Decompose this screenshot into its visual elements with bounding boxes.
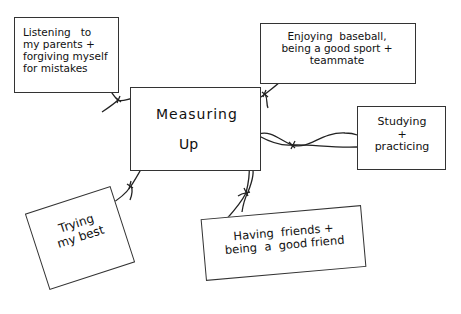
node-center-measuring-up: Measuring Up (130, 87, 261, 171)
string-tie-study (253, 131, 369, 149)
node-label: Having friends + being a good friend (211, 220, 358, 259)
center-label-line2: Up (179, 136, 198, 152)
node-label: Trying my best (49, 209, 109, 252)
node-label: Studying + practicing (370, 116, 434, 154)
node-studying-practicing: Studying + practicing (357, 106, 446, 170)
node-enjoying-baseball: Enjoying baseball, being a good sport + … (260, 23, 416, 84)
node-label: Listening to my parents + forgiving myse… (23, 26, 108, 74)
center-label-line1: Measuring (156, 106, 238, 122)
node-listening-to-parents: Listening to my parents + forgiving myse… (14, 17, 119, 93)
node-label: Enjoying baseball, being a good sport + … (267, 30, 407, 66)
